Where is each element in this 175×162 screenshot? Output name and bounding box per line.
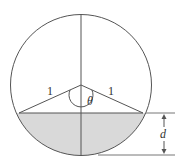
depth-label: d — [160, 127, 167, 141]
radius-left-label: 1 — [47, 84, 53, 98]
depth-arrowhead-up-icon — [162, 114, 167, 119]
circular-segment-diagram: 1 1 θ d — [0, 0, 175, 162]
depth-arrowhead-down-icon — [162, 149, 167, 154]
radius-right-label: 1 — [108, 84, 114, 98]
angle-label: θ — [87, 94, 93, 108]
